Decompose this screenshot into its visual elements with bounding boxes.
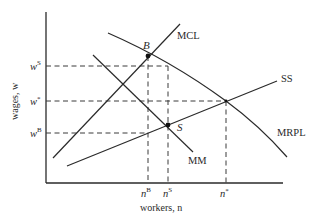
point-s-marker xyxy=(166,123,171,128)
x-tick-nb: nB xyxy=(141,186,151,199)
point-s-label: S xyxy=(177,121,183,133)
y-tick-wb: wB xyxy=(30,126,42,139)
mm-label: MM xyxy=(188,155,207,166)
mcl-curve xyxy=(53,24,180,158)
mcl-label: MCL xyxy=(177,30,200,41)
y-axis-label: wages, w xyxy=(9,82,20,120)
y-tick-wstar: w* xyxy=(30,95,41,107)
equilibrium-marker xyxy=(225,100,228,103)
point-b-label: B xyxy=(143,39,150,51)
y-tick-ws: wS xyxy=(30,59,41,72)
labor-market-diagram: MCL SS MRPL MM B S wS w* wB nB nS n* wor… xyxy=(0,0,316,222)
mrpl-label: MRPL xyxy=(277,127,306,138)
ss-curve xyxy=(67,81,277,166)
x-tick-nstar: n* xyxy=(220,187,229,199)
point-b-marker xyxy=(146,54,151,59)
x-tick-ns: nS xyxy=(163,186,172,199)
x-axis-label: workers, n xyxy=(140,202,182,213)
ss-label: SS xyxy=(281,73,293,84)
